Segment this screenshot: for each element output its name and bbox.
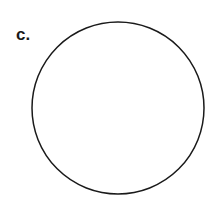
circle-diagram (0, 0, 212, 200)
circle-shape (32, 22, 204, 194)
